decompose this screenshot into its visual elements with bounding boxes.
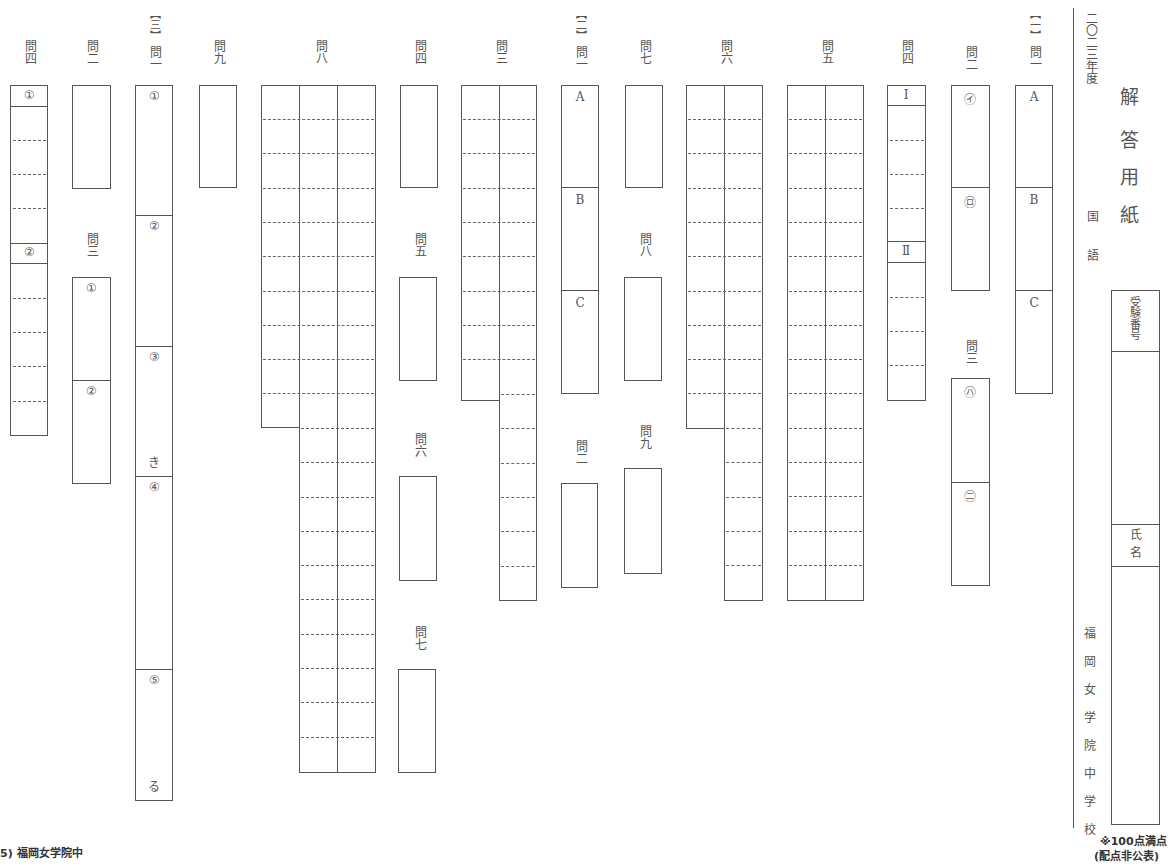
divider bbox=[499, 600, 537, 601]
s2-q2-answer-box[interactable] bbox=[561, 483, 598, 588]
grid-line bbox=[890, 365, 924, 366]
s2-q8-label: 問八 bbox=[313, 40, 327, 64]
name-field[interactable] bbox=[1112, 567, 1159, 824]
title-char-2: 答 bbox=[1117, 125, 1141, 152]
subject-char-2: 語 bbox=[1087, 246, 1099, 263]
grid-line bbox=[789, 496, 862, 497]
s1-q1-mark-a: A bbox=[1016, 90, 1052, 104]
grid-line bbox=[789, 359, 862, 360]
grid-line bbox=[890, 208, 924, 209]
s2-q5-label: 問五 bbox=[412, 233, 426, 257]
title-char-1: 解 bbox=[1117, 82, 1141, 109]
grid-line bbox=[463, 359, 535, 360]
divider bbox=[1015, 187, 1053, 188]
s2-bracket: 【二】 bbox=[573, 8, 587, 41]
divider bbox=[686, 85, 687, 428]
s1-q2-answer-box[interactable] bbox=[951, 85, 990, 291]
s2-q1-mark-c: C bbox=[562, 296, 598, 310]
divider bbox=[724, 600, 763, 601]
grid-line bbox=[501, 463, 535, 464]
s1-q9-label: 問九 bbox=[637, 425, 651, 449]
s3-q1-mark-2: ② bbox=[136, 219, 172, 233]
divider bbox=[135, 346, 173, 347]
grid-line bbox=[263, 153, 374, 154]
title-char-3: 用 bbox=[1117, 162, 1141, 189]
s2-q3-label: 問三 bbox=[493, 40, 507, 64]
grid-line bbox=[501, 394, 535, 395]
s1-q1-label: 問一 bbox=[1027, 46, 1041, 70]
divider bbox=[10, 263, 48, 264]
s1-q8-label: 問八 bbox=[637, 233, 651, 257]
s3-q1-mark-3: ③ bbox=[136, 350, 172, 364]
exam-number-field[interactable] bbox=[1112, 352, 1159, 524]
divider bbox=[135, 215, 173, 216]
s2-q7-answer-box[interactable] bbox=[398, 669, 436, 773]
grid-line bbox=[301, 462, 374, 463]
grid-line bbox=[688, 359, 761, 360]
s2-q9-answer-box[interactable] bbox=[199, 85, 237, 188]
school-char-6: 中 bbox=[1084, 764, 1096, 781]
grid-line bbox=[263, 325, 374, 326]
grid-line bbox=[789, 222, 862, 223]
s1-bracket: 【一】 bbox=[1027, 8, 1041, 41]
title-char-4: 紙 bbox=[1117, 200, 1141, 227]
s3-q2-answer-box[interactable] bbox=[72, 85, 111, 189]
grid-line bbox=[301, 702, 374, 703]
s2-q1-mark-a: A bbox=[562, 90, 598, 104]
grid-line bbox=[726, 462, 761, 463]
grid-line bbox=[688, 291, 761, 292]
s3-q4-answer-box[interactable] bbox=[10, 85, 48, 436]
divider bbox=[72, 380, 111, 381]
school-char-4: 学 bbox=[1084, 708, 1096, 725]
s1-q8-answer-box[interactable] bbox=[624, 277, 662, 381]
s3-q1-suffix-ru: る bbox=[136, 777, 172, 794]
s2-q1-label: 問一 bbox=[573, 46, 587, 70]
s3-q1-answer-box[interactable] bbox=[135, 85, 173, 801]
s2-q1-answer-box[interactable] bbox=[561, 85, 599, 394]
s3-q1-suffix-ki: き bbox=[136, 453, 172, 470]
s3-q4-mark-1: ① bbox=[11, 88, 47, 102]
grid-line bbox=[789, 188, 862, 189]
s1-q9-answer-box[interactable] bbox=[624, 468, 662, 574]
header-divider bbox=[1073, 8, 1074, 828]
grid-line bbox=[13, 208, 46, 209]
divider bbox=[887, 262, 926, 263]
school-char-2: 岡 bbox=[1084, 652, 1096, 669]
s2-q2-label: 問二 bbox=[573, 440, 587, 464]
divider bbox=[261, 85, 262, 428]
grid-line bbox=[301, 599, 374, 600]
grid-line bbox=[890, 297, 924, 298]
s2-q9-label: 問九 bbox=[211, 40, 225, 64]
divider bbox=[686, 428, 724, 429]
name-label-divider-top bbox=[1111, 524, 1160, 525]
divider bbox=[135, 476, 173, 477]
school-char-8: 校 bbox=[1084, 820, 1096, 837]
grid-line bbox=[463, 325, 535, 326]
s3-q3-mark-2: ② bbox=[73, 384, 109, 398]
divider bbox=[825, 85, 826, 601]
grid-line bbox=[13, 140, 46, 141]
s1-q4-answer-box[interactable] bbox=[887, 85, 926, 401]
grid-line bbox=[301, 737, 374, 738]
s1-q1-answer-box[interactable] bbox=[1015, 85, 1053, 394]
s1-q2-mark-ro: ㋺ bbox=[952, 193, 988, 210]
grid-line bbox=[301, 428, 374, 429]
grid-line bbox=[501, 531, 535, 532]
grid-line bbox=[726, 428, 761, 429]
s1-q7-label: 問七 bbox=[637, 40, 651, 64]
grid-line bbox=[789, 565, 862, 566]
s2-q6-answer-box[interactable] bbox=[399, 476, 437, 581]
s3-q3-label: 問三 bbox=[84, 233, 98, 257]
grid-line bbox=[890, 174, 924, 175]
s2-q1-mark-b: B bbox=[562, 193, 598, 207]
grid-line bbox=[688, 188, 761, 189]
grid-line bbox=[301, 668, 374, 669]
s1-q4-mark-1: Ⅰ bbox=[888, 88, 924, 102]
s2-q5-answer-box[interactable] bbox=[399, 277, 437, 381]
year-label: 二〇二三年度 bbox=[1083, 12, 1097, 84]
s2-q4-label: 問四 bbox=[412, 40, 426, 64]
grid-line bbox=[789, 462, 862, 463]
s2-q4-answer-box[interactable] bbox=[400, 85, 438, 188]
s1-q7-answer-box[interactable] bbox=[625, 85, 663, 188]
divider bbox=[375, 85, 376, 773]
